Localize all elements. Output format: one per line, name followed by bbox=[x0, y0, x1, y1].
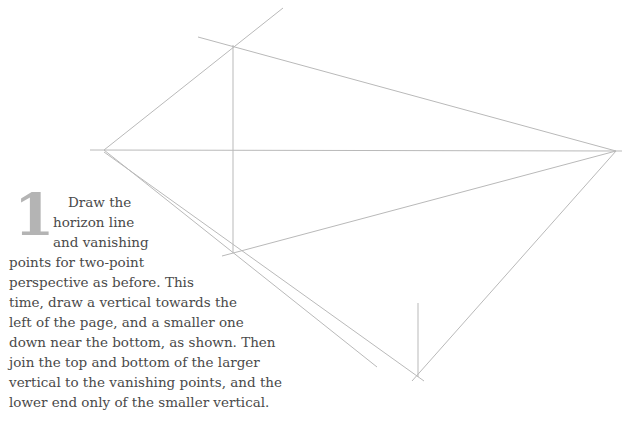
left-vp-to-top-line bbox=[104, 8, 283, 150]
instruction-line: horizon line bbox=[53, 212, 134, 232]
instruction-line: lower end only of the smaller vertical. bbox=[9, 392, 269, 412]
instruction-line: and vanishing bbox=[53, 232, 149, 252]
horizon-line bbox=[90, 150, 622, 151]
instruction-line: time, draw a vertical towards the bbox=[9, 292, 237, 312]
right-vp-to-bottom-line bbox=[222, 151, 616, 256]
instruction-line: join the top and bottom of the larger bbox=[9, 352, 260, 372]
instruction-line: perspective as before. This bbox=[9, 272, 194, 292]
step-number: 1 bbox=[14, 186, 52, 244]
right-vp-to-top-line bbox=[198, 37, 616, 151]
instruction-line: points for two-point bbox=[9, 252, 144, 272]
instruction-line: down near the bottom, as shown. Then bbox=[9, 332, 276, 352]
instruction-line: vertical to the vanishing points, and th… bbox=[9, 372, 282, 392]
instruction-line: left of the page, and a smaller one bbox=[9, 312, 244, 332]
right-vp-to-small-vertical-line bbox=[412, 151, 616, 381]
instruction-line: Draw the bbox=[68, 192, 131, 212]
